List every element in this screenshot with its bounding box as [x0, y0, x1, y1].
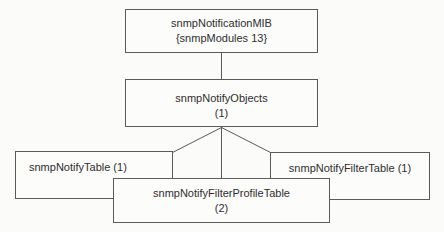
- node-label: snmpNotifyFilterProfileTable: [153, 186, 290, 201]
- node-label: snmpNotificationMIB: [171, 16, 272, 31]
- node-sublabel: (2): [215, 201, 228, 216]
- node-label: snmpNotifyTable (1): [29, 160, 127, 175]
- node-label: snmpNotifyFilterTable (1): [289, 161, 411, 176]
- node-sublabel: (1): [215, 106, 228, 121]
- node-snmp-notification-mib: snmpNotificationMIB {snmpModules 13}: [125, 9, 318, 53]
- node-snmp-notify-filter-profile-table: snmpNotifyFilterProfileTable (2): [113, 178, 330, 223]
- node-label: snmpNotifyObjects: [175, 91, 267, 106]
- node-snmp-notify-objects: snmpNotifyObjects (1): [125, 79, 318, 127]
- connector-objects-to-filter-table: [222, 128, 271, 153]
- snmp-notification-mib-diagram: snmpNotificationMIB {snmpModules 13} snm…: [0, 0, 444, 232]
- connector-objects-to-notify-table: [173, 128, 222, 153]
- node-sublabel: {snmpModules 13}: [176, 31, 267, 46]
